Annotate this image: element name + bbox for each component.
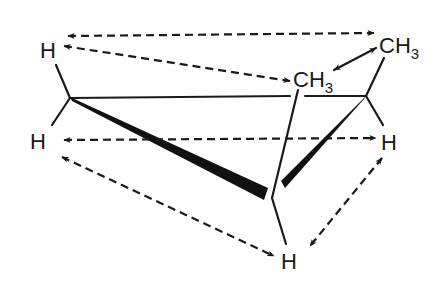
noe-hright-hbottom	[310, 158, 382, 246]
atom-labels: H H CH3 CH3 H H	[30, 33, 419, 274]
bond-c2-ch3	[366, 58, 384, 96]
cyclopropane-diagram: H H CH3 CH3 H H	[0, 0, 446, 284]
atom-h-bottom: H	[281, 249, 297, 274]
noe-htopleft-ch3center	[64, 46, 290, 81]
bond-c2-h-right	[366, 96, 383, 125]
bond-c1-h-left	[52, 98, 70, 125]
atom-h-top-left: H	[40, 38, 56, 63]
substituent-bonds	[52, 58, 384, 244]
noe-arrows	[62, 33, 382, 256]
noe-hmidleft-hbottom	[62, 157, 274, 256]
noe-hmidleft-hright	[64, 138, 376, 140]
atom-ch3-center: CH3	[293, 67, 333, 96]
noe-htopleft-ch3topright	[68, 33, 374, 36]
bond-c3-h-bottom	[272, 198, 286, 244]
atom-h-right: H	[381, 130, 397, 155]
bond-c1-c2	[70, 96, 290, 98]
atom-h-mid-left: H	[30, 129, 46, 154]
noe-ch3center-ch3topright	[334, 48, 376, 70]
ring-bonds	[70, 96, 366, 200]
wedge-bond-c1-c3	[70, 97, 268, 200]
bond-c1-h-top	[56, 65, 70, 98]
atom-ch3-top-right: CH3	[379, 33, 419, 62]
